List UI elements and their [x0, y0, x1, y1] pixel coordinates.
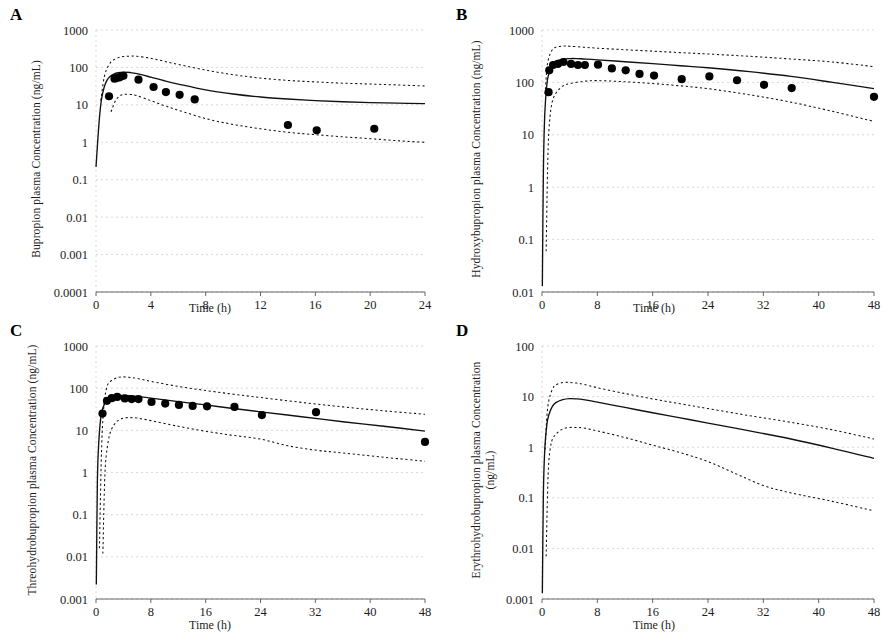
panel-b-ci-curve	[545, 46, 874, 94]
panel-c: C Threohydrobupropion plasma Concentrati…	[0, 318, 443, 638]
panel-a-median-curve	[96, 72, 425, 167]
panel-b-observed-point	[567, 60, 575, 68]
panel-a-observed-point	[134, 76, 142, 84]
panel-b-x-axis-label: Time (h)	[594, 301, 714, 316]
panel-d-xtick: 8	[594, 605, 600, 619]
panel-d-ytick: 1	[528, 441, 534, 455]
panel-c-ytick: 1000	[63, 340, 88, 354]
panel-d-ytick: 10	[522, 390, 535, 404]
panel-c-observed-point	[161, 400, 169, 408]
panel-d-ytick: 0.1	[518, 491, 534, 505]
panel-b-ytick: 1	[528, 181, 534, 195]
panel-b-ytick: 0.1	[518, 233, 534, 247]
panel-a-observed-point	[105, 92, 113, 100]
panel-d-xtick: 0	[539, 605, 545, 619]
panel-c-observed-point	[98, 409, 106, 417]
panel-c-ytick: 0.001	[60, 593, 88, 607]
panel-b-xtick: 0	[539, 298, 545, 312]
panel-b-xtick: 32	[757, 298, 770, 312]
panel-d-median-curve	[542, 399, 874, 594]
panel-c-ytick: 0.1	[72, 508, 88, 522]
panel-c-observed-point	[175, 401, 183, 409]
panel-a-observed-point	[119, 72, 127, 80]
panel-a-ytick: 1000	[63, 24, 88, 38]
panel-a-observed-point	[284, 121, 292, 129]
panel-d-xtick: 32	[757, 605, 770, 619]
panel-a-xtick: 0	[93, 298, 99, 312]
panel-c-median-curve	[96, 395, 425, 584]
panel-a-plot: 10001001010.10.010.0010.000104812162024	[0, 0, 443, 320]
panel-a-ytick: 0.01	[66, 211, 88, 225]
panel-b-observed-point	[608, 64, 616, 72]
panel-c-xtick: 24	[254, 605, 267, 619]
panel-b-ytick: 100	[515, 76, 534, 90]
panel-c-ytick: 1	[82, 466, 88, 480]
panel-c-xtick: 48	[419, 605, 432, 619]
panel-d-x-axis-label: Time (h)	[594, 618, 714, 633]
panel-c-plot: 10001001010.10.010.001081624324048	[0, 318, 443, 638]
panel-b-ytick: 10	[522, 128, 535, 142]
panel-b-observed-point	[870, 93, 878, 101]
panel-b-ci-curve	[546, 81, 874, 252]
panel-b-plot: 10001001010.10.01081624324048	[442, 0, 885, 320]
panel-b-observed-point	[635, 70, 643, 78]
panel-c-observed-point	[147, 398, 155, 406]
panel-c-ytick: 100	[69, 382, 88, 396]
panel-a-observed-point	[370, 125, 378, 133]
panel-a: A Bupropion plasma Concentration (ng/mL)…	[0, 0, 443, 320]
panel-d-ytick: 0.01	[512, 542, 534, 556]
panel-d-ytick: 100	[515, 340, 534, 354]
panel-a-ytick: 0.001	[60, 248, 88, 262]
panel-d-ci-curve	[545, 382, 874, 449]
panel-c-x-axis-label: Time (h)	[150, 618, 270, 633]
panel-d-xtick: 24	[702, 605, 715, 619]
panel-a-observed-point	[176, 91, 184, 99]
panel-b-observed-point	[581, 61, 589, 69]
panel-a-ci-curve	[111, 94, 425, 142]
panel-d-ytick: 0.001	[506, 593, 534, 607]
panel-c-xtick: 0	[93, 605, 99, 619]
panel-b-observed-point	[650, 71, 658, 79]
panel-c-observed-point	[230, 403, 238, 411]
panel-c-observed-point	[203, 402, 211, 410]
panel-d-xtick: 40	[812, 605, 825, 619]
panel-a-observed-point	[162, 88, 170, 96]
panel-c-observed-point	[134, 395, 142, 403]
panel-b-observed-point	[622, 66, 630, 74]
panel-a-ytick: 100	[69, 61, 88, 75]
panel-a-ci-curve	[101, 56, 425, 100]
panel-b-observed-point	[760, 81, 768, 89]
panel-a-observed-point	[149, 83, 157, 91]
panel-b-xtick: 40	[812, 298, 825, 312]
pk-figure: A Bupropion plasma Concentration (ng/mL)…	[0, 0, 885, 641]
panel-c-observed-point	[312, 408, 320, 416]
panel-b-xtick: 48	[868, 298, 881, 312]
panel-c-xtick: 8	[148, 605, 154, 619]
panel-a-xtick: 24	[419, 298, 432, 312]
panel-d-xtick: 48	[868, 605, 881, 619]
panel-b-ytick: 1000	[509, 24, 534, 38]
panel-c-ytick: 0.01	[66, 550, 88, 564]
panel-a-ytick: 0.1	[72, 173, 88, 187]
panel-b-median-curve	[542, 59, 874, 287]
panel-c-observed-point	[421, 438, 429, 446]
panel-c-ytick: 10	[76, 424, 89, 438]
panel-a-ytick: 1	[82, 136, 88, 150]
panel-c-xtick: 16	[199, 605, 212, 619]
panel-b-observed-point	[788, 84, 796, 92]
panel-b-ytick: 0.01	[512, 286, 534, 300]
panel-d-plot: 1001010.10.010.001081624324048	[442, 318, 885, 638]
panel-c-ci-curve	[103, 418, 425, 554]
panel-b-observed-point	[705, 72, 713, 80]
panel-d: D Erythrohydrobupropion plasma Concentra…	[442, 318, 885, 638]
panel-a-ytick: 10	[76, 98, 89, 112]
panel-c-observed-point	[113, 393, 121, 401]
panel-b: B Hydroxybupropion plasma Concentration …	[442, 0, 885, 320]
panel-b-observed-point	[678, 75, 686, 83]
panel-d-xtick: 16	[646, 605, 659, 619]
panel-b-observed-point	[559, 58, 567, 66]
panel-a-xtick: 20	[364, 298, 377, 312]
panel-a-ytick: 0.0001	[54, 286, 88, 300]
panel-c-xtick: 32	[309, 605, 322, 619]
panel-c-observed-point	[258, 411, 266, 419]
